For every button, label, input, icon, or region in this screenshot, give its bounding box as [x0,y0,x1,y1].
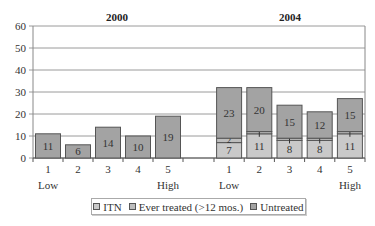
segment-label: 19 [163,131,175,143]
y-tick-label: 30 [15,86,27,98]
legend-swatch-untreated [250,203,257,210]
legend-label: Untreated [260,201,303,213]
x-tick-label: 1 [226,163,232,175]
segment-label: 11 [345,140,356,152]
segment-label: 7 [226,144,232,156]
y-tick-label: 20 [15,108,27,120]
segment-label: 10 [133,141,145,153]
x-tick-label: 3 [287,163,293,175]
y-tick-label: 0 [21,152,27,164]
legend-swatch-itn [93,203,100,210]
segment-label: 15 [284,116,296,128]
segment-label: 12 [314,119,325,131]
panel-title: 2004 [279,11,302,23]
x-sublabel: Low [38,179,58,191]
y-tick-label: 40 [15,64,27,76]
x-tick-label: 3 [105,163,111,175]
y-tick-label: 50 [15,42,27,54]
x-sublabel: High [339,179,362,191]
chart-legend: ITN Ever treated (>12 mos.) Untreated [91,198,306,215]
x-tick-label: 2 [257,163,263,175]
segment-label: 11 [43,140,54,152]
panel-title: 2000 [106,11,129,23]
segment-label: 23 [224,107,236,119]
legend-swatch-ever-treated [129,203,136,210]
x-tick-label: 5 [347,163,353,175]
segment-label: 6 [75,145,81,157]
segment-label: 14 [103,137,115,149]
y-tick-label: 10 [15,130,27,142]
x-tick-label: 5 [165,163,171,175]
legend-item-untreated: Untreated [250,201,303,213]
segment-label: 20 [254,104,266,116]
segment-label: 15 [344,109,356,121]
x-tick-label: 1 [45,163,51,175]
x-sublabel: Low [219,179,239,191]
x-tick-label: 2 [75,163,81,175]
x-tick-label: 4 [135,163,141,175]
legend-item-itn: ITN [93,201,121,213]
segment-label: 8 [317,143,323,155]
legend-label: ITN [103,201,121,213]
stacked-bar-chart: 01020304050602000111Low62143104195High20… [0,0,375,226]
x-tick-label: 4 [317,163,323,175]
segment-label: 8 [287,143,293,155]
legend-item-ever-treated: Ever treated (>12 mos.) [129,201,244,213]
y-tick-label: 60 [15,20,27,32]
x-sublabel: High [157,179,180,191]
legend-label: Ever treated (>12 mos.) [139,201,244,213]
segment-label: 11 [254,140,265,152]
